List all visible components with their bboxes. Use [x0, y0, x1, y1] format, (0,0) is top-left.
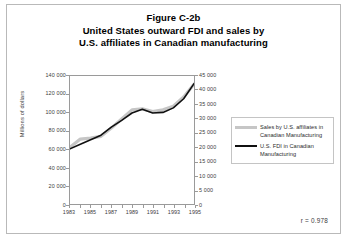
y-axis-left-tick-label: 140 000	[45, 72, 66, 78]
figure-title-line-3: U.S. affiliates in Canadian manufacturin…	[7, 37, 340, 50]
x-axis-tickmark	[90, 205, 91, 208]
y-axis-right-tickmark	[195, 147, 198, 148]
x-axis-tickmark	[174, 205, 175, 208]
figure-title-line-2: United States outward FDI and sales by	[7, 25, 340, 38]
x-axis-tickmark	[185, 205, 186, 208]
y-axis-left-ticks: 020 00040 00060 00080 000100 000120 0001…	[40, 75, 66, 205]
x-axis-tick-label: 1991	[147, 209, 159, 215]
y-axis-right-tick-label: 40 000	[199, 86, 216, 92]
x-axis-tickmark	[122, 205, 123, 208]
y-axis-right-tick-label: 45 000	[199, 72, 216, 78]
x-axis-ticks: 1983198519871989199119931995	[69, 209, 195, 219]
y-axis-right-tickmark	[195, 118, 198, 119]
y-axis-left-tick-label: 100 000	[45, 109, 66, 115]
x-axis-tickmark	[143, 205, 144, 208]
figure-title-line-1: Figure C-2b	[7, 12, 340, 25]
y-axis-left-tick-label: 120 000	[45, 90, 66, 96]
x-axis-tick-label: 1993	[168, 209, 180, 215]
x-axis-tick-label: 1987	[105, 209, 117, 215]
figure-title: Figure C-2b United States outward FDI an…	[7, 12, 340, 50]
y-axis-right-tick-label: 5 000	[199, 187, 213, 193]
y-axis-right-tick-label: 10 000	[199, 173, 216, 179]
y-axis-right-tick-label: 15 000	[199, 158, 216, 164]
x-axis-tickmark	[153, 205, 154, 208]
legend-swatch-sales	[235, 126, 257, 129]
correlation-note: r = 0.978	[301, 217, 328, 224]
y-axis-left-tick-label: 20 000	[49, 183, 66, 189]
legend-item-sales: Sales by U.S. affiliates in Canadian Man…	[235, 123, 333, 139]
x-axis-tick-label: 1985	[84, 209, 96, 215]
y-axis-right-tick-label: 20 000	[199, 144, 216, 150]
legend-item-fdi: U.S. FDI in Canadian Manufacturing	[235, 142, 333, 158]
y-axis-right-ticks: 05 00010 00015 00020 00025 00030 00035 0…	[199, 75, 229, 205]
y-axis-left-tick-label: 60 000	[49, 146, 66, 152]
y-axis-right-tickmark	[195, 191, 198, 192]
chart-legend: Sales by U.S. affiliates in Canadian Man…	[231, 117, 334, 164]
y-axis-right-tickmark	[195, 75, 198, 76]
legend-label-sales: Sales by U.S. affiliates in Canadian Man…	[260, 123, 333, 139]
x-axis-tickmark	[164, 205, 165, 208]
y-axis-title: Millions of dollars	[19, 74, 25, 154]
x-axis-tickmark	[101, 205, 102, 208]
plot-lines	[70, 76, 194, 204]
y-axis-right-tickmark	[195, 104, 198, 105]
x-axis-tick-label: 1983	[63, 209, 75, 215]
y-axis-right-tick-label: 30 000	[199, 115, 216, 121]
x-axis-tick-label: 1995	[189, 209, 201, 215]
y-axis-right-tickmark	[195, 176, 198, 177]
series-line-sales	[70, 84, 194, 147]
y-axis-right-tickmark	[195, 162, 198, 163]
x-axis-tick-label: 1989	[126, 209, 138, 215]
y-axis-right-tick-label: 25 000	[199, 129, 216, 135]
y-axis-right-tickmark	[195, 89, 198, 90]
x-axis-tickmark	[132, 205, 133, 208]
y-axis-right-tickmark	[195, 133, 198, 134]
y-axis-left-tick-label: 80 000	[49, 127, 66, 133]
x-axis-tickmark	[111, 205, 112, 208]
figure-card: Figure C-2b United States outward FDI an…	[6, 4, 341, 234]
x-axis-tickmark	[69, 205, 70, 208]
plot-area	[69, 75, 195, 205]
x-axis-tickmark	[80, 205, 81, 208]
y-axis-left-tick-label: 40 000	[49, 165, 66, 171]
x-axis-tickmark	[195, 205, 196, 208]
y-axis-right-tick-label: 0	[199, 202, 202, 208]
y-axis-right-tick-label: 35 000	[199, 101, 216, 107]
legend-label-fdi: U.S. FDI in Canadian Manufacturing	[260, 142, 333, 158]
legend-swatch-fdi	[235, 145, 257, 147]
